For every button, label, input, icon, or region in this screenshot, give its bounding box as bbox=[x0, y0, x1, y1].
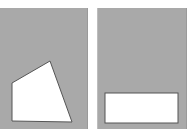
rectangle-shape bbox=[105, 93, 178, 123]
quadrilateral-shape bbox=[12, 61, 72, 122]
shapes-layer bbox=[0, 0, 193, 138]
